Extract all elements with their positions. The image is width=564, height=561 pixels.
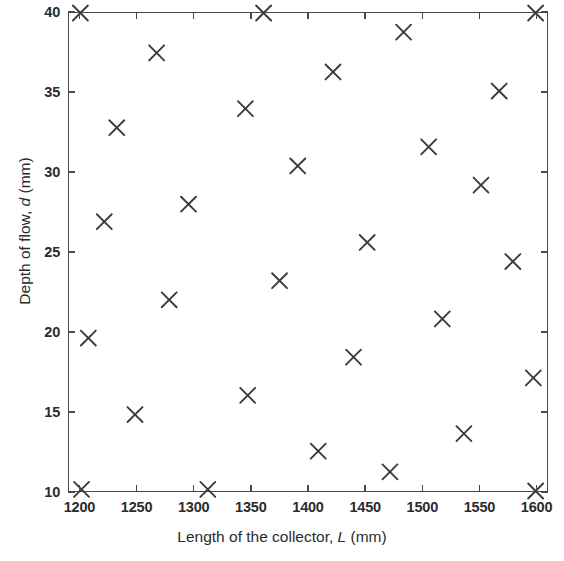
- x-tick-top-1250: [136, 12, 138, 19]
- x-tick-top-1500: [422, 12, 424, 19]
- data-point-marker: [290, 158, 305, 173]
- x-tick-bottom-1450: [364, 485, 366, 492]
- x-tick-label-1550: 1550: [464, 499, 495, 515]
- y-tick-left-25: [68, 251, 75, 253]
- data-point-marker: [505, 254, 520, 269]
- plot-area: [68, 12, 548, 492]
- x-axis-title-variable: L: [338, 528, 347, 545]
- data-point-marker: [128, 407, 143, 422]
- x-tick-label-1400: 1400: [292, 499, 323, 515]
- x-tick-top-1350: [250, 12, 252, 19]
- data-point-marker: [326, 64, 341, 79]
- data-point-marker: [74, 482, 89, 497]
- x-tick-top-1400: [307, 12, 309, 19]
- y-tick-label-15: 15: [22, 404, 60, 420]
- x-tick-label-1600: 1600: [521, 499, 552, 515]
- data-point-marker: [109, 120, 124, 135]
- y-tick-right-30: [541, 171, 548, 173]
- x-tick-top-1550: [479, 12, 481, 19]
- data-point-marker: [97, 214, 112, 229]
- x-tick-bottom-1500: [422, 485, 424, 492]
- y-tick-left-35: [68, 91, 75, 93]
- data-markers-layer: [69, 13, 547, 491]
- y-axis-title-unit: (mm): [16, 157, 33, 193]
- x-tick-top-1300: [193, 12, 195, 19]
- scatter-chart-figure: 120012501300135014001450150015501600 101…: [0, 0, 564, 561]
- y-tick-left-40: [68, 11, 75, 13]
- data-point-marker: [360, 235, 375, 250]
- y-tick-right-20: [541, 331, 548, 333]
- y-tick-right-15: [541, 411, 548, 413]
- x-tick-top-1200: [79, 12, 81, 19]
- y-tick-left-30: [68, 171, 75, 173]
- data-point-marker: [382, 464, 397, 479]
- y-tick-label-10: 10: [22, 484, 60, 500]
- y-tick-right-25: [541, 251, 548, 253]
- data-point-marker: [149, 45, 164, 60]
- y-tick-right-10: [541, 491, 548, 493]
- x-tick-top-1450: [364, 12, 366, 19]
- y-axis-title-variable: d: [16, 198, 33, 207]
- data-point-marker: [396, 25, 411, 40]
- x-tick-top-1600: [536, 12, 538, 19]
- y-tick-right-40: [541, 11, 548, 13]
- y-tick-left-10: [68, 491, 75, 493]
- data-point-marker: [73, 6, 88, 21]
- data-point-marker: [162, 292, 177, 307]
- y-tick-right-35: [541, 91, 548, 93]
- x-axis-title-text: Length of the collector,: [177, 528, 333, 545]
- x-tick-bottom-1400: [307, 485, 309, 492]
- x-axis-title: Length of the collector, L (mm): [0, 528, 564, 546]
- x-tick-label-1200: 1200: [64, 499, 95, 515]
- data-point-marker: [421, 139, 436, 154]
- y-tick-label-40: 40: [22, 4, 60, 20]
- x-tick-bottom-1300: [193, 485, 195, 492]
- data-point-marker: [81, 331, 96, 346]
- data-point-marker: [435, 311, 450, 326]
- x-tick-bottom-1200: [79, 485, 81, 492]
- y-tick-left-15: [68, 411, 75, 413]
- data-point-marker: [456, 426, 471, 441]
- data-point-marker: [200, 482, 215, 497]
- data-point-marker: [311, 444, 326, 459]
- data-point-marker: [181, 197, 196, 212]
- x-tick-label-1250: 1250: [121, 499, 152, 515]
- x-axis-title-unit: (mm): [351, 528, 387, 545]
- x-tick-label-1500: 1500: [407, 499, 438, 515]
- x-tick-label-1300: 1300: [178, 499, 209, 515]
- x-tick-bottom-1600: [536, 485, 538, 492]
- x-tick-label-1350: 1350: [235, 499, 266, 515]
- data-point-marker: [526, 370, 541, 385]
- data-point-marker: [238, 101, 253, 116]
- data-point-marker: [272, 273, 287, 288]
- y-tick-left-20: [68, 331, 75, 333]
- data-point-marker: [256, 6, 271, 21]
- y-axis-title: Depth of flow, d (mm): [16, 71, 34, 391]
- x-tick-bottom-1550: [479, 485, 481, 492]
- y-axis-title-text: Depth of flow,: [16, 211, 33, 305]
- data-point-marker: [240, 388, 255, 403]
- x-tick-bottom-1250: [136, 485, 138, 492]
- data-point-marker: [346, 350, 361, 365]
- data-point-marker: [492, 84, 507, 99]
- data-point-marker: [474, 178, 489, 193]
- x-tick-bottom-1350: [250, 485, 252, 492]
- x-tick-label-1450: 1450: [349, 499, 380, 515]
